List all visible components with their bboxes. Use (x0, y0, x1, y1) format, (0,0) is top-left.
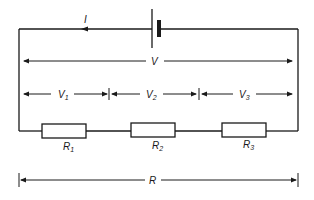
total-resistance-label: R (149, 175, 156, 186)
circuit-wires (19, 29, 298, 131)
resistors (42, 123, 266, 138)
voltage-label-v2: V2 (146, 89, 157, 101)
total-resistance-span (19, 173, 298, 187)
resistor-r3 (222, 123, 266, 137)
resistor-r1 (42, 124, 86, 138)
resistor-label-r1: R1 (63, 141, 74, 153)
current-label: I (84, 14, 87, 25)
resistor-label-r2: R2 (152, 140, 163, 152)
voltage-label-v1: V1 (58, 89, 69, 101)
battery-icon (152, 9, 161, 48)
resistor-label-r3: R3 (243, 139, 254, 151)
voltage-label-v3: V3 (239, 89, 250, 101)
current-arrow: I (81, 14, 88, 32)
total-voltage-label: V (151, 56, 159, 67)
resistor-r2 (131, 123, 175, 137)
arrow-left-icon (81, 27, 88, 32)
series-circuit-diagram: I V V1 V2 V3 R1 R2 R3 R (0, 0, 314, 200)
